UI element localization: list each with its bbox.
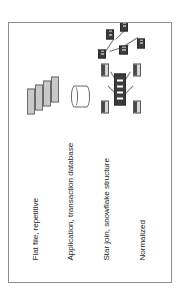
diagram-canvas: Flat file, repetitive Application, trans… — [9, 23, 171, 282]
dimension-box — [133, 63, 141, 76]
normalized-column — [123, 25, 126, 26]
normalized-column — [109, 34, 112, 35]
normalized-column — [122, 49, 126, 50]
normalized-column — [123, 22, 126, 23]
normalized-column — [140, 42, 143, 43]
normalized-table — [106, 29, 114, 39]
normalized-table — [98, 49, 106, 58]
normalized-table — [120, 22, 128, 31]
label-flat-file: Flat file, repetitive — [31, 198, 40, 260]
flat-file-rect — [51, 76, 59, 102]
database-cylinder-icon — [71, 85, 90, 107]
flat-file-rect — [43, 80, 51, 106]
fact-column — [117, 85, 123, 87]
normalized-column — [122, 46, 126, 47]
fact-column — [117, 97, 123, 99]
fact-table — [114, 73, 126, 105]
dimension-box — [101, 100, 109, 113]
flat-file-rect — [27, 88, 35, 114]
normalized-column — [140, 39, 143, 40]
diagram-rotation-wrapper: Flat file, repetitive Application, trans… — [9, 23, 171, 282]
label-application-database: Application, transaction database — [66, 142, 75, 260]
normalized-column — [109, 30, 112, 31]
label-normalized: Normalized — [138, 220, 147, 260]
flat-file-rect — [35, 84, 43, 110]
figure-frame: Flat file, repetitive Application, trans… — [8, 22, 172, 283]
normalized-table — [119, 45, 128, 54]
fact-column — [117, 79, 123, 81]
dimension-box — [101, 63, 109, 76]
label-star-join: Star join, snowflake structure — [102, 158, 111, 260]
normalized-column — [101, 53, 104, 54]
normalized-column — [101, 50, 104, 51]
fact-column — [117, 91, 123, 93]
normalized-table — [137, 38, 145, 48]
dimension-box — [133, 100, 141, 113]
